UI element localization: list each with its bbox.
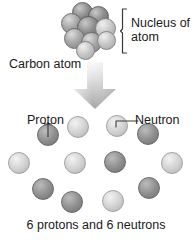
proton-particle <box>32 178 54 200</box>
neutron-particle <box>67 116 89 138</box>
proton-particle <box>61 191 83 213</box>
neutron-particle <box>8 152 30 174</box>
neutron-particle <box>161 152 183 174</box>
diagram-canvas: Nucleus of atom Carbon atom <box>0 0 192 240</box>
particle-field <box>0 0 192 218</box>
neutron-particle <box>64 152 86 174</box>
caption-text: 6 protons and 6 neutrons <box>0 218 192 232</box>
neutron-particle <box>102 190 124 212</box>
proton-particle <box>138 177 160 199</box>
label-proton: Proton <box>27 113 64 127</box>
label-neutron: Neutron <box>135 113 179 127</box>
proton-particle <box>104 151 126 173</box>
